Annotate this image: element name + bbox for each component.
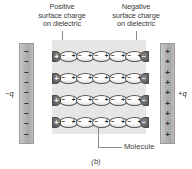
plate-left-sign: − [24,131,29,139]
molecule-negative-pole: − [78,53,82,59]
molecule-positive-pole: + [72,97,76,103]
leader-line-molecule-horizontal [98,147,122,148]
molecule-negative-pole: − [95,97,99,103]
surface-charge-cap-right: − [140,95,149,106]
molecule-positive-pole: + [72,75,76,81]
molecule-negative-pole: − [128,53,132,59]
plate-right-sign: + [165,120,170,128]
molecule-negative-pole: − [128,119,132,125]
molecule-positive-pole: + [72,119,76,125]
surface-charge-cap-left: + [52,51,61,62]
label-charge-negative-q: −q [5,89,14,98]
molecule-negative-pole: − [62,119,66,125]
molecule-negative-pole: − [111,119,115,125]
label-molecule: Molecule [124,142,154,151]
molecule-positive-pole: + [105,53,109,59]
molecule-positive-pole: + [72,53,76,59]
molecule-negative-pole: − [78,75,82,81]
plate-right-sign: + [165,69,170,77]
label-negative-surface-charge: Negative surface charge on dielectric [92,3,180,29]
molecule-chain-row: +−+−+−+−+−+− [52,50,146,63]
surface-charge-cap-right: − [140,51,149,62]
plate-right-sign: + [165,110,170,118]
plate-left-sign: − [24,69,29,77]
plate-right-sign: + [165,100,170,108]
surface-charge-cap-right: − [140,73,149,84]
surface-charge-cap-right: − [140,117,149,128]
molecule-negative-pole: − [128,97,132,103]
surface-charge-cap-left: + [52,73,61,84]
molecule-positive-pole: + [105,75,109,81]
figure-capacitor-dielectric: Positive surface charge on dielectric Ne… [0,0,192,169]
plate-right-sign: + [165,58,170,66]
plate-right-sign: + [165,131,170,139]
molecule-positive-pole: + [105,119,109,125]
figure-caption: (b) [0,157,192,166]
molecule-chain-row: +−+−+−+−+−+− [52,72,146,85]
plate-left-sign: − [24,100,29,108]
plate-right-sign: + [165,48,170,56]
plate-left-sign: − [24,58,29,66]
molecule-negative-pole: − [62,53,66,59]
plate-left-sign: − [24,120,29,128]
plate-left-sign: − [24,79,29,87]
molecule-negative-pole: − [128,75,132,81]
molecule-negative-pole: − [95,75,99,81]
molecule-chain-row: +−+−+−+−+−+− [52,116,146,129]
surface-charge-cap-left: + [52,117,61,128]
molecule-negative-pole: − [95,119,99,125]
molecule-negative-pole: − [78,97,82,103]
plate-left-sign: − [24,110,29,118]
capacitor-plate-right-positive: +++++++++ [160,43,175,144]
molecule-chain-row: +−+−+−+−+−+− [52,94,146,107]
leader-line-molecule-vertical [98,128,99,147]
molecule-positive-pole: + [105,97,109,103]
molecule-negative-pole: − [111,75,115,81]
plate-right-sign: + [165,89,170,97]
molecule-negative-pole: − [95,53,99,59]
molecule-negative-pole: − [62,75,66,81]
plate-left-sign: − [24,48,29,56]
surface-charge-cap-left: + [52,95,61,106]
plate-left-sign: − [24,89,29,97]
capacitor-plate-left-negative: −−−−−−−−− [19,43,34,144]
label-charge-positive-q: +q [178,89,187,98]
molecule-negative-pole: − [111,53,115,59]
molecule-negative-pole: − [111,97,115,103]
molecule-negative-pole: − [62,97,66,103]
plate-right-sign: + [165,79,170,87]
label-negative-line3: on dielectric [92,20,180,29]
molecule-negative-pole: − [78,119,82,125]
